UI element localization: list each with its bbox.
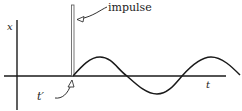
impulse-arrow-icon: [77, 17, 84, 23]
impulse-label: impulse: [108, 1, 152, 14]
t-prime-arrow-icon: [68, 80, 74, 87]
impulse-bar: [72, 5, 75, 76]
impulse-response-diagram: impulse x t t′: [0, 0, 242, 111]
x-axis-label: t: [206, 79, 211, 90]
impulse-time-label: t′: [37, 90, 44, 103]
y-axis-label: x: [7, 21, 13, 32]
